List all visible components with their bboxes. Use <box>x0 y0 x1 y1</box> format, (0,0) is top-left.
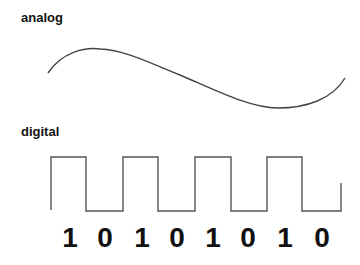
bit-digit: 0 <box>233 222 263 254</box>
digital-square-wave <box>51 157 341 211</box>
digital-label: digital <box>21 124 59 139</box>
bit-digit: 0 <box>90 222 120 254</box>
bit-digit: 1 <box>198 222 228 254</box>
bit-digit: 1 <box>270 222 300 254</box>
bit-digit: 0 <box>162 222 192 254</box>
bit-sequence: 1 0 1 0 1 0 1 0 <box>0 222 360 254</box>
analog-wave <box>48 49 345 108</box>
bit-digit: 0 <box>307 222 337 254</box>
bit-digit: 1 <box>55 222 85 254</box>
bit-digit: 1 <box>127 222 157 254</box>
